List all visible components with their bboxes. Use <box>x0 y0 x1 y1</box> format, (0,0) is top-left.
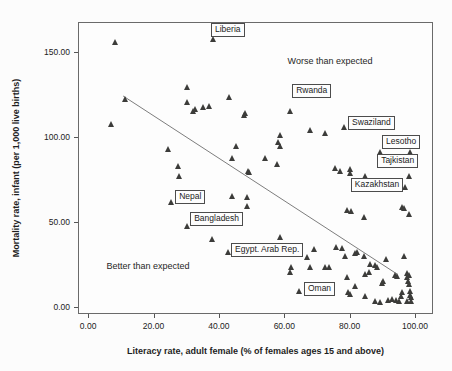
data-point-marker <box>108 121 114 127</box>
data-point-marker <box>190 108 196 114</box>
data-point-marker <box>322 130 328 136</box>
data-point-marker <box>277 143 283 149</box>
country-label: Rwanda <box>292 84 331 98</box>
data-point-marker <box>175 163 181 169</box>
data-point-marker <box>354 249 360 255</box>
data-point-marker <box>287 108 293 114</box>
data-point-marker <box>307 127 313 133</box>
x-tick-label: 60.00 <box>274 321 295 331</box>
annotation-text: Better than expected <box>106 261 189 271</box>
data-point-marker <box>165 146 171 152</box>
data-point-marker <box>341 124 347 130</box>
data-point-marker <box>287 269 293 275</box>
data-point-marker <box>406 173 412 179</box>
x-tick-label: 20.00 <box>143 321 164 331</box>
data-point-marker <box>277 234 283 240</box>
y-tick-label: 100.00 <box>28 132 70 142</box>
data-point-marker <box>262 155 268 161</box>
y-tick-label: 50.00 <box>28 217 70 227</box>
data-point-marker <box>361 214 367 220</box>
data-point-marker <box>362 293 368 299</box>
x-axis-tick <box>88 314 89 318</box>
data-point-marker <box>394 273 400 279</box>
data-point-marker <box>352 283 358 289</box>
x-tick-label: 0.00 <box>80 321 97 331</box>
data-point-marker <box>184 84 190 90</box>
y-axis-title: Mortality rate, infant (per 1,000 live b… <box>11 22 25 314</box>
y-axis-tick <box>74 307 78 308</box>
data-point-marker <box>296 288 302 294</box>
data-point-marker <box>184 99 190 105</box>
y-axis-tick <box>74 137 78 138</box>
x-axis-tick <box>219 314 220 318</box>
country-label: Egypt. Arab Rep. <box>231 243 303 257</box>
annotation-text: Worse than expected <box>288 56 373 66</box>
data-point-marker <box>374 264 380 270</box>
data-point-marker <box>233 143 239 149</box>
data-point-marker <box>361 253 367 259</box>
country-label: Lesotho <box>382 135 420 149</box>
data-point-marker <box>229 193 235 199</box>
data-point-marker <box>337 168 343 174</box>
data-point-marker <box>377 299 383 305</box>
country-label: Bangladesh <box>190 212 243 226</box>
x-axis-tick <box>154 314 155 318</box>
country-label: Tajkistan <box>377 154 418 168</box>
data-point-marker <box>168 199 174 205</box>
data-point-marker <box>347 170 353 176</box>
data-point-marker <box>244 194 250 200</box>
data-point-marker <box>348 208 354 214</box>
data-point-marker <box>274 161 280 167</box>
y-tick-label: 150.00 <box>28 47 70 57</box>
data-point-marker <box>304 254 310 260</box>
data-point-marker <box>404 298 410 304</box>
data-point-marker <box>366 269 372 275</box>
data-point-marker <box>326 264 332 270</box>
data-point-marker <box>401 253 407 259</box>
y-tick-label: 0.00 <box>28 302 70 312</box>
data-point-marker <box>406 281 412 287</box>
data-point-marker <box>229 155 235 161</box>
data-point-marker <box>311 246 317 252</box>
data-point-marker <box>241 112 247 118</box>
data-point-marker <box>112 39 118 45</box>
country-label: Liberia <box>211 23 245 37</box>
data-point-marker <box>307 264 313 270</box>
x-axis-tick <box>284 314 285 318</box>
x-axis-tick <box>350 314 351 318</box>
data-point-marker <box>342 253 348 259</box>
data-point-marker <box>399 289 405 295</box>
data-point-marker <box>206 103 212 109</box>
country-label: Oman <box>304 282 335 296</box>
country-label: Swaziland <box>348 116 395 130</box>
country-label: Nepal <box>175 190 205 204</box>
y-axis-tick <box>74 222 78 223</box>
data-point-marker <box>347 291 353 297</box>
x-tick-label: 40.00 <box>208 321 229 331</box>
scatter-chart: Mortality rate, infant (per 1,000 live b… <box>0 0 452 371</box>
data-point-marker <box>122 96 128 102</box>
data-point-marker <box>379 280 385 286</box>
data-point-marker <box>246 169 252 175</box>
data-point-marker <box>209 236 215 242</box>
data-point-marker <box>277 132 283 138</box>
data-point-marker <box>226 94 232 100</box>
x-tick-label: 80.00 <box>339 321 360 331</box>
data-point-marker <box>344 274 350 280</box>
data-point-marker <box>406 211 412 217</box>
data-point-marker <box>176 173 182 179</box>
x-axis-tick <box>415 314 416 318</box>
data-point-marker <box>244 203 250 209</box>
x-axis-title: Literacy rate, adult female (% of female… <box>78 346 433 356</box>
data-point-marker <box>339 245 345 251</box>
data-point-marker <box>184 223 190 229</box>
y-axis-tick <box>74 52 78 53</box>
data-point-marker <box>225 249 231 255</box>
data-point-marker <box>396 298 402 304</box>
x-tick-label: 100.00 <box>402 321 428 331</box>
country-label: Kazakhstan <box>351 178 403 192</box>
data-point-marker <box>383 256 389 262</box>
